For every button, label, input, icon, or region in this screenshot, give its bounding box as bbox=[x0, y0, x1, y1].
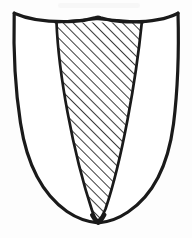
shield-drawing bbox=[0, 0, 192, 238]
shield-figure: Heraldic shield with hatched pile bbox=[0, 0, 192, 238]
